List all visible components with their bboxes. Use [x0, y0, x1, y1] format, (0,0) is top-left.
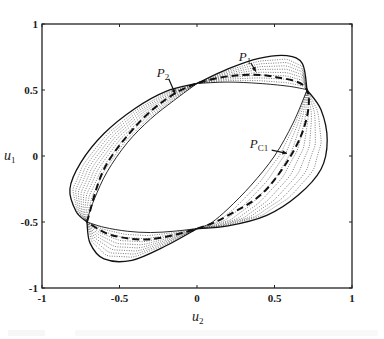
trajectory-curve [197, 90, 311, 229]
trajectory-curve [83, 83, 197, 222]
trajectory-curve [197, 90, 307, 229]
trajectory-curve [81, 83, 197, 222]
axis-ticks [42, 24, 352, 288]
annotation-p1: P1 [238, 49, 251, 66]
axis-tick-labels: -1-0.500.5110.50-0.5-1 [21, 18, 355, 304]
x-tick-label: -1 [37, 292, 46, 304]
y-tick-label: 1 [33, 18, 39, 30]
annotation-p2: P2 [156, 65, 169, 82]
x-tick-label: -0.5 [111, 292, 129, 304]
figure-caption-remnant [8, 330, 378, 336]
x-tick-label: 1 [349, 292, 355, 304]
y-tick-label: -1 [29, 282, 38, 294]
dashed-center-path-curve [87, 75, 309, 240]
plot-frame [42, 24, 352, 288]
outer-bound-top-curve [197, 55, 307, 90]
chart-canvas: P1P2PC1 -1-0.500.5110.50-0.5-1 u2 u1 [0, 0, 384, 339]
trajectory-curve [197, 63, 307, 90]
y-tick-label: 0 [33, 150, 39, 162]
y-axis-label: u1 [4, 148, 16, 165]
outer-bound-upper-left-curve [70, 83, 197, 222]
annotations: P1P2PC1 [156, 49, 287, 155]
trajectory-curve [78, 83, 197, 222]
x-axis-label: u2 [192, 309, 204, 326]
trajectory-curve [197, 90, 315, 229]
x-tick-label: 0 [194, 292, 200, 304]
y-tick-label: -0.5 [21, 216, 39, 228]
trajectory-curve [87, 222, 197, 248]
trajectory-curve [197, 81, 307, 90]
arrowhead-icon [282, 150, 287, 154]
trajectory-curve [197, 90, 321, 229]
y-tick-label: 0.5 [24, 84, 38, 96]
annotation-pc1: PC1 [249, 136, 268, 153]
trajectory-curve [73, 83, 197, 222]
x-tick-label: 0.5 [268, 292, 282, 304]
